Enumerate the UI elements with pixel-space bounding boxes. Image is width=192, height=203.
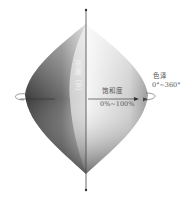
saturation-range: 0%~100% bbox=[100, 101, 134, 108]
double-cone-graphic bbox=[0, 0, 192, 203]
saturation-title: 饱和度 bbox=[102, 88, 123, 95]
brightness-label: 亮度（B） bbox=[73, 60, 83, 96]
hue-title: 色泽 bbox=[153, 73, 167, 80]
hsb-diagram: 亮度（B） 饱和度 0%~100% 色泽 0°~360° bbox=[0, 0, 192, 203]
hue-range: 0°~360° bbox=[152, 82, 181, 89]
